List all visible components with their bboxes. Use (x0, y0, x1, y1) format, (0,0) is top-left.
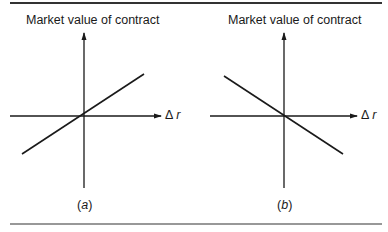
panel-b-x-axis-label: Δ r (361, 108, 376, 122)
panel-a-caption: (a) (77, 198, 92, 212)
panel-b-plot (210, 33, 357, 188)
paren-close: ) (288, 198, 292, 212)
delta-symbol: Δ (361, 108, 369, 122)
diagram-canvas (0, 0, 388, 232)
panel-a-y-axis-label: Market value of contract (26, 13, 159, 27)
panel-a-x-axis-label: Δ r (165, 108, 180, 122)
rate-variable: r (372, 108, 376, 122)
panel-a-value-line (22, 74, 144, 154)
paren-close: ) (88, 198, 92, 212)
panel-b-y-axis-label: Market value of contract (228, 13, 361, 27)
panel-a-plot (10, 33, 161, 188)
delta-symbol: Δ (165, 108, 173, 122)
rate-variable: r (176, 108, 180, 122)
panel-b-caption: (b) (277, 198, 292, 212)
